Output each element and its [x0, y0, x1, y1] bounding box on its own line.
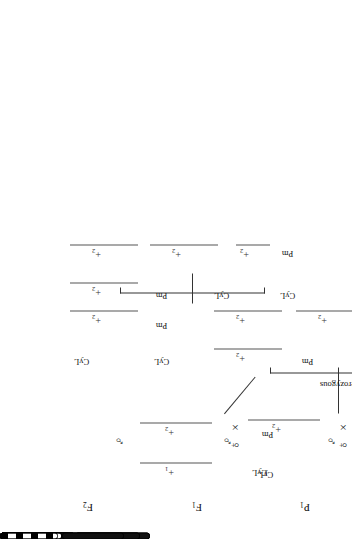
chromosome-wildtype: [140, 462, 212, 463]
f3-genotype-cyl-plus-lower: CyL +2: [0, 532, 58, 539]
male-symbol: ♂: [220, 434, 235, 447]
allele-plus-2: +2: [236, 351, 245, 363]
chromosome-pm: [62, 532, 124, 539]
cross-symbol-f1: ×: [336, 421, 350, 433]
chromosome-wildtype: [236, 244, 270, 245]
chromosome-wildtype: [70, 282, 138, 283]
chromosome-wildtype: [248, 419, 320, 420]
generation-label-f2: F2: [83, 500, 93, 513]
male-symbol: ♂: [324, 434, 339, 447]
chromosome-wildtype: [214, 348, 282, 349]
chromosome-label-cyl: CyL: [154, 356, 169, 366]
allele-plus-2: +2: [92, 285, 101, 297]
allele-plus-2: +2: [240, 247, 249, 259]
chromosome-wildtype: [296, 310, 352, 311]
connector-p1-to-f1: [224, 376, 256, 413]
allele-plus-2: +2: [165, 425, 174, 437]
allele-plus-2: +2: [318, 313, 327, 325]
allele-plus-2: +2: [92, 313, 101, 325]
generation-label-p1: P1: [300, 500, 310, 513]
chromosome-label-cyl: CyL: [252, 467, 267, 477]
chromosome-wildtype: [70, 244, 138, 245]
chromosome-label-cyl: CyL: [280, 290, 295, 300]
chromosome-label-cyl: CyL: [74, 356, 89, 366]
chromosome-wildtype: [150, 244, 218, 245]
allele-plus-2: +2: [92, 247, 101, 259]
chromosome-wildtype: [70, 310, 138, 311]
allele-plus-2: +2: [172, 247, 181, 259]
chromosome-label-pm: Pm: [282, 248, 293, 258]
allele-plus-2: +2: [236, 313, 245, 325]
brace-f1-offspring: [270, 367, 352, 373]
generation-label-f1: F1: [192, 500, 202, 513]
allele-plus-1: +1: [165, 465, 174, 477]
chromosome-label-pm: Pm: [302, 356, 313, 366]
chromosome-cyl: [0, 532, 58, 539]
allele-plus-2: +2: [272, 422, 281, 434]
brace-f3-offspring: [120, 287, 265, 293]
genetics-cross-diagram: P1 CyL Pm ♀ × +1 +2 ♂ F1 CyL Pm ♀ ×: [0, 0, 352, 539]
label-heterozygous: Heterozygous: [320, 379, 352, 389]
male-symbol: ♂: [112, 434, 127, 447]
connector-f1-to-f2: [338, 367, 339, 413]
chromosome-wildtype: [214, 310, 282, 311]
chromosome-wildtype: [140, 422, 212, 423]
cross-symbol-p1: ×: [228, 421, 242, 433]
chromosome-label-pm: Pm: [156, 320, 167, 330]
